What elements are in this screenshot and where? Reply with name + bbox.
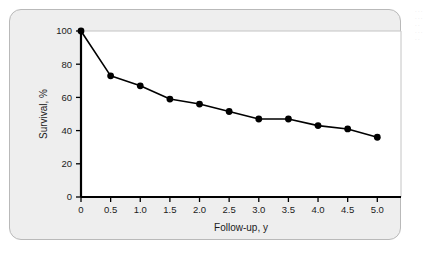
x-axis-tick-label: 2.5 xyxy=(223,204,236,215)
y-axis-tick-label: 0 xyxy=(67,191,72,202)
data-point-marker xyxy=(315,122,322,129)
data-point-marker xyxy=(344,126,351,133)
figure-card: 02040608010000.51.01.52.02.53.03.54.04.5… xyxy=(9,9,401,240)
x-axis-tick-label: 3.5 xyxy=(282,204,295,215)
y-axis-tick-label: 100 xyxy=(56,25,72,36)
y-axis-tick-label: 80 xyxy=(61,59,72,70)
x-axis-tick-label: 4.5 xyxy=(341,204,354,215)
x-axis-tick-label: 2.0 xyxy=(193,204,206,215)
data-point-marker xyxy=(78,28,85,35)
data-point-marker xyxy=(107,72,114,79)
x-axis-tick-label: 4.0 xyxy=(311,204,324,215)
edge-artifact-line: · · · xyxy=(415,8,431,15)
x-axis-tick-label: 5.0 xyxy=(371,204,384,215)
y-axis-tick-label: 40 xyxy=(61,125,72,136)
data-point-marker xyxy=(255,116,262,123)
data-point-marker xyxy=(374,134,381,141)
data-point-marker xyxy=(137,82,144,89)
x-axis-tick-label: 0.5 xyxy=(104,204,117,215)
x-axis-tick-label: 1.5 xyxy=(163,204,176,215)
x-axis-tick-label: 3.0 xyxy=(252,204,265,215)
data-point-marker xyxy=(226,108,233,115)
edge-artifact-line: · · · xyxy=(415,29,431,36)
x-axis-tick-label: 1.0 xyxy=(134,204,147,215)
edge-artifact-line: · · xyxy=(415,36,431,43)
data-point-marker xyxy=(285,116,292,123)
survival-curve-chart: 02040608010000.51.01.52.02.53.03.54.04.5… xyxy=(10,10,402,241)
page-edge-text-artifact: · · · · · · · · · · · · · xyxy=(415,8,431,88)
y-axis-tick-label: 20 xyxy=(61,158,72,169)
x-axis-title: Follow-up, y xyxy=(214,222,268,233)
edge-artifact-line: · · · xyxy=(415,15,431,22)
data-point-marker xyxy=(196,101,203,108)
x-axis-tick-label: 0 xyxy=(78,204,83,215)
y-axis-title: Survival, % xyxy=(38,89,49,139)
data-point-marker xyxy=(166,96,173,103)
edge-artifact-line: · · xyxy=(415,22,431,29)
y-axis-tick-label: 60 xyxy=(61,92,72,103)
